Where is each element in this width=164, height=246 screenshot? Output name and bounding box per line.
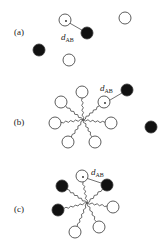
white-particle [62, 136, 74, 148]
white-particle [59, 14, 71, 26]
white-particle [69, 226, 81, 238]
distance-anchor-dot [82, 176, 84, 178]
panel-label: (b) [14, 117, 25, 127]
panel-label: (c) [14, 204, 24, 214]
tether-chain [77, 203, 87, 226]
white-particle [93, 221, 105, 233]
tether-chain [64, 203, 87, 209]
distance-anchor-dot [65, 20, 67, 22]
tether-chain [66, 106, 83, 120]
tether-chain [87, 203, 107, 207]
tether-chain [82, 98, 84, 120]
black-particle [33, 44, 45, 56]
tether-chain [83, 120, 92, 137]
black-particle [121, 84, 133, 96]
panel-b: (b)dAB [14, 83, 157, 148]
black-particle [81, 27, 93, 39]
white-particle [55, 96, 67, 108]
white-particle [76, 86, 88, 98]
distance-label: dAB [61, 32, 74, 43]
panel-label: (a) [14, 27, 24, 37]
white-particle [107, 201, 119, 213]
white-particle [98, 96, 110, 108]
distance-label: dAB [91, 167, 104, 178]
panel-a: (a)dAB [14, 12, 131, 66]
tether-chain [83, 120, 105, 123]
black-particle [52, 204, 64, 216]
panel-c: (c)dAB [14, 167, 119, 238]
white-particle [105, 117, 117, 129]
distance-label: dAB [100, 83, 113, 94]
white-particle [89, 136, 101, 148]
black-particle [101, 179, 113, 191]
white-particle [76, 170, 88, 182]
tether-chain [67, 189, 87, 203]
tether-chain [87, 189, 103, 203]
tether-chain [61, 119, 83, 122]
tether-chain [83, 182, 88, 203]
tether-chain [83, 106, 99, 120]
diagram-canvas: (a)dAB(b)dAB(c)dAB [0, 0, 164, 246]
white-particle [63, 54, 75, 66]
black-particle [145, 121, 157, 133]
white-particle [119, 12, 131, 24]
black-particle [56, 180, 68, 192]
tether-chain [71, 120, 83, 137]
white-particle [49, 117, 61, 129]
distance-anchor-dot [104, 102, 106, 104]
tether-chain [87, 203, 96, 222]
